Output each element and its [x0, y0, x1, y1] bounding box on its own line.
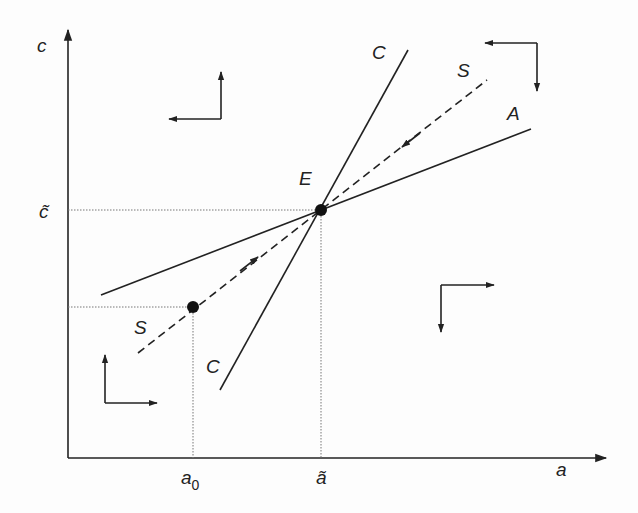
phase-diagram: c a a c̃ a0 ã E C C S S A [0, 0, 638, 513]
y-tick-c-tilde: c̃ [39, 201, 49, 222]
label-s-top: S [457, 60, 470, 81]
s-lower-arrow-icon [240, 257, 258, 271]
x-axis-label-text: a [556, 459, 567, 480]
direction-arrows-lower-left [105, 355, 157, 403]
y-axis-label: c [37, 35, 47, 56]
curve-c [220, 50, 408, 390]
direction-arrows-upper-left [169, 72, 221, 119]
label-s-bottom: S [134, 317, 147, 338]
s-upper-arrow-icon [402, 133, 420, 147]
direction-arrows-lower-right [441, 285, 494, 332]
x-tick-a0: a0 [181, 467, 200, 493]
label-e: E [299, 168, 312, 189]
direction-arrows-upper-right [485, 43, 537, 91]
label-a: A [506, 103, 520, 124]
label-c-top: C [372, 42, 386, 63]
x-tick-a-tilde: ã [316, 467, 327, 488]
label-c-bottom: C [206, 356, 220, 377]
initial-point [187, 301, 199, 313]
guide-lines [68, 210, 321, 458]
equilibrium-point-e [315, 204, 327, 216]
